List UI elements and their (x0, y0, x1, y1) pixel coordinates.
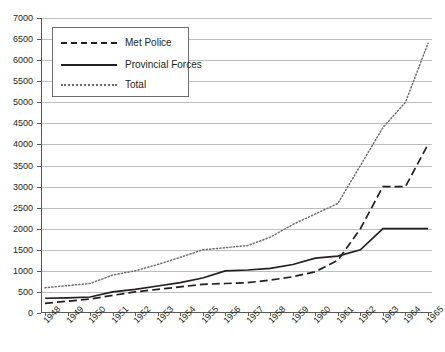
y-axis-label: 0 (0, 309, 33, 318)
y-axis-label: 6500 (0, 35, 33, 44)
y-axis-label: 1500 (0, 246, 33, 255)
y-axis-label: 4000 (0, 140, 33, 149)
legend-label-total: Total (125, 78, 146, 92)
y-axis-label: 5500 (0, 77, 33, 86)
legend-swatch-dashed-icon (61, 42, 117, 44)
legend-swatch-dotted-icon (61, 84, 117, 86)
y-axis-label: 5000 (0, 98, 33, 107)
y-axis-label: 2000 (0, 225, 33, 234)
y-axis-label: 3000 (0, 183, 33, 192)
y-axis-label: 4500 (0, 119, 33, 128)
y-axis-label: 2500 (0, 204, 33, 213)
legend-swatch-solid-icon (61, 64, 117, 66)
y-axis-label: 7000 (0, 14, 33, 23)
line-chart: 0500100015002000250030003500400045005000… (0, 0, 445, 352)
legend-label-provincial-forces: Provincial Forces (125, 58, 202, 72)
chart-legend: Met Police Provincial Forces Total (52, 27, 189, 97)
legend-label-met-police: Met Police (125, 36, 172, 50)
series-line-provincial-forces (45, 229, 428, 299)
y-axis-label: 6000 (0, 56, 33, 65)
y-axis-tick (37, 313, 41, 314)
y-axis-label: 1000 (0, 267, 33, 276)
y-axis-label: 3500 (0, 162, 33, 171)
y-axis-label: 500 (0, 288, 33, 297)
